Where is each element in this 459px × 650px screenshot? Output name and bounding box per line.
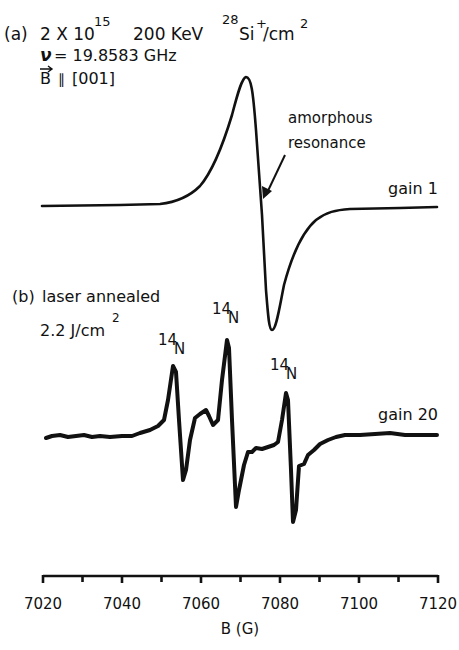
x-tick-label: 7100 (340, 595, 378, 613)
x-tick-label: 7040 (103, 595, 141, 613)
panel-a-header: (a) 2 X 10 15 200 KeV 28 Si + /cm 2 ν = … (4, 12, 308, 88)
x-tick-labels: 7020 7040 7060 7080 7100 7120 (24, 595, 457, 613)
trace-b (46, 340, 437, 522)
ion-mass: 28 (222, 12, 239, 27)
x-tick-label: 7080 (261, 595, 299, 613)
x-tick-label: 7120 (419, 595, 457, 613)
amorphous-annotation: amorphous resonance gain 1 (262, 109, 438, 199)
dose-text: 2 X 10 (40, 24, 95, 44)
fluence-unit: /cm (263, 24, 295, 44)
annotation-line-1: amorphous (288, 109, 373, 127)
panel-b-label: (b) (12, 287, 35, 306)
x-axis: 7020 7040 7060 7080 7100 7120 B (G) (24, 575, 457, 638)
n14-symbol-1: N (174, 340, 185, 358)
fluence-unit-exp: 2 (300, 16, 308, 31)
x-axis-title: B (G) (221, 620, 259, 638)
energy-text: 200 KeV (133, 24, 204, 44)
frequency-symbol: ν (40, 45, 52, 65)
gain-20-label: gain 20 (378, 405, 438, 424)
gain-1-label: gain 1 (388, 179, 438, 198)
energy-density-exp: 2 (112, 311, 120, 325)
panel-a-label: (a) (4, 24, 28, 44)
annotation-line-2: resonance (288, 134, 366, 152)
panel-b-treatment: laser annealed (42, 287, 160, 306)
n14-symbol-3: N (286, 365, 297, 383)
n14-symbol-2: N (228, 309, 239, 327)
panel-b-header: (b) laser annealed 2.2 J/cm 2 (12, 287, 160, 340)
x-tick-label: 7020 (24, 595, 62, 613)
energy-density: 2.2 J/cm (40, 321, 105, 340)
field-direction: [001] (72, 69, 115, 88)
parallel-symbol: ∥ (58, 71, 65, 87)
annotation-arrow-icon (266, 155, 285, 195)
arrowhead-icon (262, 186, 272, 199)
ion-symbol: Si (239, 24, 255, 44)
dose-exponent: 15 (94, 14, 111, 29)
x-tick-label: 7060 (182, 595, 220, 613)
frequency-text: = 19.8583 GHz (54, 46, 177, 65)
epr-figure: (a) 2 X 10 15 200 KeV 28 Si + /cm 2 ν = … (0, 0, 459, 650)
